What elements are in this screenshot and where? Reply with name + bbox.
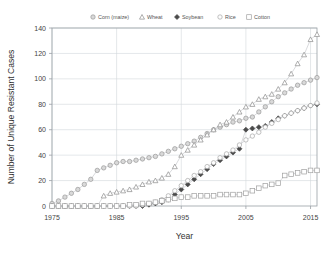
data-point [257, 186, 262, 191]
legend-label-0: Corn (maize) [98, 14, 129, 20]
data-point [250, 188, 255, 193]
data-point [302, 106, 306, 110]
data-point [269, 182, 274, 187]
ytick-label-40: 40 [38, 152, 46, 159]
data-point [76, 187, 80, 191]
xtick-label-1995: 1995 [173, 214, 189, 221]
series-line [52, 170, 317, 206]
data-point [231, 148, 235, 152]
chart-container: 02040608010012014019751985199520052015Nu… [0, 0, 329, 254]
data-point [76, 204, 81, 209]
data-point [256, 125, 261, 130]
data-point [302, 169, 307, 174]
data-point [56, 199, 60, 203]
data-point [192, 142, 197, 147]
data-point [140, 182, 145, 187]
data-point [237, 109, 242, 114]
data-point [257, 130, 261, 134]
data-point [295, 83, 299, 87]
data-point [160, 152, 164, 156]
data-point [88, 204, 93, 209]
data-point [153, 154, 157, 158]
data-point [230, 115, 235, 120]
data-point [270, 100, 274, 104]
data-point [270, 121, 274, 125]
data-point [147, 155, 151, 159]
data-point [257, 110, 261, 114]
data-point [186, 142, 190, 146]
data-point [205, 164, 209, 168]
data-point [121, 204, 126, 209]
data-point [114, 204, 119, 209]
data-point [192, 173, 196, 177]
data-point [231, 120, 235, 124]
data-point [289, 71, 294, 76]
data-point [173, 147, 177, 151]
data-point [256, 97, 261, 102]
data-point [166, 149, 170, 153]
data-point [134, 158, 138, 162]
data-point [250, 134, 254, 138]
data-point [243, 104, 248, 109]
data-point [147, 201, 152, 206]
data-point [308, 168, 313, 173]
data-point [108, 163, 112, 167]
data-point [282, 91, 286, 95]
ytick-label-60: 60 [38, 126, 46, 133]
data-point [101, 204, 106, 209]
data-point [289, 172, 294, 177]
data-point [102, 166, 106, 170]
data-point [237, 119, 241, 123]
data-point [185, 148, 190, 153]
data-point [224, 152, 228, 156]
data-point [231, 192, 236, 197]
data-point [192, 194, 197, 199]
data-point [127, 159, 131, 163]
data-point [50, 204, 55, 209]
data-point [282, 114, 286, 118]
data-point [276, 181, 281, 186]
xtick-label-2005: 2005 [238, 214, 254, 221]
ytick-label-20: 20 [38, 177, 46, 184]
data-point [224, 192, 229, 197]
data-point [134, 202, 139, 207]
data-point [134, 184, 139, 189]
legend-label-3: Rice [225, 14, 236, 20]
data-point [289, 111, 293, 115]
data-point [166, 197, 171, 202]
data-point [302, 52, 307, 57]
data-point [295, 108, 299, 112]
legend-marker-2 [175, 15, 180, 20]
data-point [160, 199, 165, 204]
data-point [218, 192, 223, 197]
data-point [95, 204, 100, 209]
data-point [244, 191, 249, 196]
data-point [276, 117, 280, 121]
legend-label-4: Cotton [254, 14, 270, 20]
data-point [302, 80, 306, 84]
legend-marker-4 [247, 15, 252, 20]
data-point [101, 193, 106, 198]
data-point [308, 37, 313, 42]
legend-marker-1 [140, 15, 145, 20]
data-point [82, 182, 86, 186]
data-point [159, 176, 164, 181]
data-point [140, 157, 144, 161]
data-point [315, 101, 319, 105]
data-point [282, 173, 287, 178]
data-point [56, 204, 61, 209]
series-cotton [50, 168, 320, 208]
series-corn-maize [50, 75, 319, 205]
data-point [295, 61, 300, 66]
data-point [211, 161, 215, 165]
resistant-cases-line-chart: 02040608010012014019751985199520052015Nu… [0, 0, 329, 254]
data-point [295, 171, 300, 176]
xtick-label-2015: 2015 [303, 214, 319, 221]
data-point [237, 192, 242, 197]
data-point [315, 32, 320, 37]
data-point [211, 194, 216, 199]
data-point [140, 201, 145, 206]
data-point [179, 144, 183, 148]
ytick-label-80: 80 [38, 101, 46, 108]
data-point [250, 115, 254, 119]
